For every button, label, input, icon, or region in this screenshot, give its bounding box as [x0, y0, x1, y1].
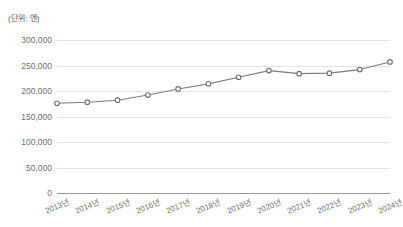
series-data-point	[85, 100, 90, 105]
y-axis-tick-label: 50,000	[26, 163, 52, 173]
y-axis-tick-label: 100,000	[21, 137, 52, 147]
x-axis-tick-label: 2014년	[73, 196, 100, 215]
series-data-point	[327, 71, 332, 76]
x-axis-tick-label: 2021년	[285, 196, 312, 215]
x-axis-tick-label: 2018년	[194, 196, 221, 215]
series-data-point	[176, 87, 181, 92]
y-axis-tick-label: 300,000	[21, 35, 52, 45]
x-axis-tick-label: 2022년	[315, 196, 342, 215]
y-axis-tick-label: 250,000	[21, 61, 52, 71]
x-axis-tick-label: 2013년	[43, 196, 70, 215]
unit-caption: (단위: 엔)	[8, 12, 39, 23]
plot-area: 050,000100,000150,000200,000250,000300,0…	[57, 40, 390, 193]
series-layer	[57, 40, 390, 193]
y-axis-tick-label: 0	[47, 188, 52, 198]
x-axis-tick-label: 2023년	[346, 196, 373, 215]
y-axis-tick-label: 200,000	[21, 86, 52, 96]
x-axis-tick-label: 2016년	[134, 196, 161, 215]
series-data-point	[206, 82, 211, 87]
series-data-point	[55, 101, 60, 106]
series-data-point	[357, 67, 362, 72]
x-axis-tick-label: 2019년	[225, 196, 252, 215]
x-axis-tick-label: 2017년	[164, 196, 191, 215]
series-line	[57, 62, 390, 103]
series-data-point	[146, 93, 151, 98]
x-axis-tick-label: 2015년	[104, 196, 131, 215]
x-axis-tick-label: 2020년	[255, 196, 282, 215]
series-data-point	[115, 98, 120, 103]
series-data-point	[388, 60, 393, 65]
y-axis-tick-label: 150,000	[21, 112, 52, 122]
axis-baseline	[57, 193, 390, 194]
series-data-point	[297, 71, 302, 76]
series-data-point	[236, 75, 241, 80]
series-data-point	[267, 68, 272, 73]
x-axis-tick-label: 2024년	[376, 196, 403, 215]
